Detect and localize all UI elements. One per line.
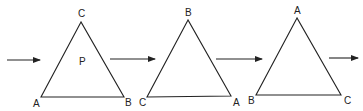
vertex-label-bottom-left: A [33,98,40,109]
vertex-label-bottom-left: C [139,97,146,108]
triangle-3: A B C [248,5,351,106]
vertex-label-bottom-right: A [233,97,240,108]
vertex-label-apex: B [185,7,192,18]
triangle-2: B C A [139,7,240,108]
vertex-label-bottom-left: B [248,95,255,106]
triangle-rotation-diagram: C A B P B C A A B C [0,0,363,111]
vertex-label-apex: A [294,5,301,16]
center-label: P [79,56,86,67]
vertex-label-bottom-right: B [125,97,132,108]
vertex-label-bottom-right: C [344,95,351,106]
vertex-label-apex: C [78,8,85,19]
